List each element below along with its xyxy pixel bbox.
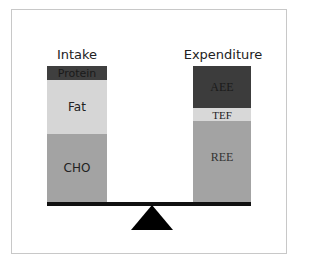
protein-label: Protein <box>58 67 97 80</box>
fat-label: Fat <box>68 100 86 114</box>
ree-label: REE <box>211 150 234 165</box>
aee-label: AEE <box>210 80 233 95</box>
intake-title: Intake <box>40 47 114 62</box>
fat-segment: Fat <box>47 80 107 134</box>
cho-label: CHO <box>64 161 91 175</box>
ree-segment: REE <box>193 121 251 202</box>
protein-segment: Protein <box>47 66 107 80</box>
fulcrum-triangle-icon <box>131 205 173 230</box>
tef-segment: TEF <box>193 108 251 121</box>
tef-label: TEF <box>212 109 232 121</box>
aee-segment: AEE <box>193 66 251 108</box>
expenditure-title: Expenditure <box>178 47 268 62</box>
cho-segment: CHO <box>47 134 107 202</box>
